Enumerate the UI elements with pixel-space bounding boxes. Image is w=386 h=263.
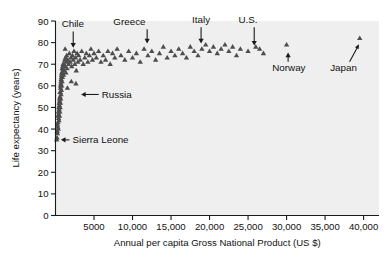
annotation-label: Sierra Leone xyxy=(72,134,129,145)
x-tick-label: 25,000 xyxy=(233,221,262,232)
y-tick-label: 30 xyxy=(38,145,49,156)
x-tick-label: 10,000 xyxy=(118,221,147,232)
annotation-label: Russia xyxy=(102,89,132,100)
x-tick-label: 30,000 xyxy=(272,221,301,232)
x-axis-title: Annual per capita Gross National Product… xyxy=(114,237,321,248)
y-tick-label: 20 xyxy=(38,167,49,178)
scatter-chart-figure: ChileGreeceItalyU.S.NorwayRussiaSierra L… xyxy=(0,0,386,263)
y-tick-label: 90 xyxy=(38,16,49,27)
annotation-label: U.S. xyxy=(239,14,258,25)
x-tick-label: 40,000 xyxy=(349,221,378,232)
annotation-label: Italy xyxy=(192,14,210,25)
annotation-label: Norway xyxy=(272,62,305,73)
chart-svg: ChileGreeceItalyU.S.NorwayRussiaSierra L… xyxy=(0,0,386,263)
x-tick-label: 20,000 xyxy=(195,221,224,232)
y-tick-label: 50 xyxy=(38,102,49,113)
y-tick-label: 0 xyxy=(43,210,48,221)
y-axis-title: Life expectancy (years) xyxy=(10,68,21,167)
y-tick-label: 10 xyxy=(38,188,49,199)
plot-background xyxy=(56,21,380,216)
annotation-label: Japan xyxy=(330,62,357,73)
y-tick-label: 80 xyxy=(38,37,49,48)
x-tick-label: 5000 xyxy=(83,221,104,232)
y-tick-label: 60 xyxy=(38,80,49,91)
y-tick-label: 70 xyxy=(38,59,49,70)
annotation-label: Greece xyxy=(113,16,146,27)
x-tick-label: 15,000 xyxy=(156,221,185,232)
x-tick-label: 35,000 xyxy=(310,221,339,232)
annotation-label: Chile xyxy=(62,18,85,29)
y-tick-label: 40 xyxy=(38,124,49,135)
